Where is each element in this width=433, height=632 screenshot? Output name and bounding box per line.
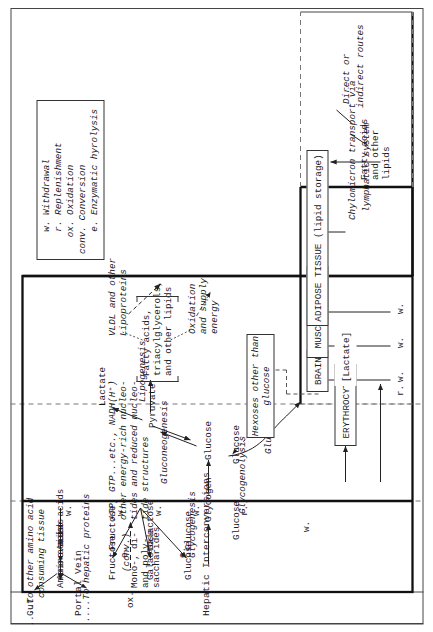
- to-other-amino-acid-tissue-label: ....To other amino acid consuming tissue: [24, 498, 46, 626]
- gut-saccharides-label: Mono-, di- and poly- saccharides: [128, 527, 161, 588]
- w-label-muscle: w.: [394, 337, 405, 348]
- direct-routes-label: Direct or: [340, 54, 351, 104]
- glycogen-label: Glycogen: [202, 477, 213, 522]
- lactate-box: [Lactate]: [334, 328, 356, 386]
- lactate-label: Lactate: [96, 367, 107, 406]
- hepatic-glucose-mid-label: Glucose: [202, 421, 213, 460]
- pyruvate-label: Pyruvate: [146, 383, 157, 428]
- to-hepatic-proteins-label: ....To hepatic proteins: [80, 494, 91, 622]
- portal-w-label: w.: [300, 521, 311, 532]
- portal-glucose-2-label: Glucose: [230, 501, 241, 540]
- gut-e-label-2: e.: [176, 547, 187, 558]
- w-label-brain: w.: [394, 371, 405, 382]
- lipids-bracket-left: [136, 376, 178, 382]
- gut-e-label-1: e.: [118, 547, 129, 558]
- vldl-label: VLDL and other Lipoproteins: [106, 258, 128, 336]
- figure-stage: Hepatic Interconversions Portal Vein Gut…: [0, 0, 433, 632]
- indirect-routes-label: indirect routes: [354, 24, 365, 108]
- lipids-bracket-right: [136, 296, 178, 302]
- w-label-adipose: w.: [394, 303, 405, 314]
- legend-box: w. Withdrawal r. Replenishment ox. Oxida…: [36, 100, 104, 260]
- adipose-tissue-box: ADIPOSE TISSUE (lipid storage): [306, 150, 328, 326]
- portal-glucose-label: Glucose: [182, 511, 193, 550]
- gluconeogenesis-label-1: Gluconeogenesis: [158, 400, 169, 484]
- ox-label: ox.: [124, 591, 135, 608]
- portal-fructose-label: Fructose: [106, 505, 117, 550]
- hexoses-other-than-glucose-box: Hexoses other than glucose: [246, 334, 274, 438]
- r-label-brain: r.: [394, 385, 405, 396]
- oxidation-supply-energy-label: Oxidation and supply energy: [186, 278, 219, 334]
- gut-amino-acids-label: Amino acids: [54, 527, 65, 588]
- lymphatic-system-label: lymphatic system: [360, 123, 371, 212]
